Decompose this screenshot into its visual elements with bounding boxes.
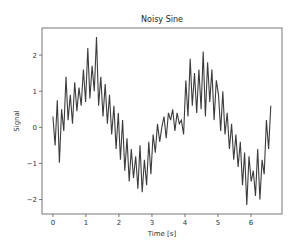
y-tick-label: −1: [27, 160, 37, 168]
x-tick-label: 3: [150, 219, 154, 227]
x-tick-label: 2: [117, 219, 121, 227]
x-tick-label: 0: [51, 219, 55, 227]
y-tick-label: 2: [33, 52, 37, 60]
plot-area: [42, 28, 282, 214]
x-axis-label: Time [s]: [147, 230, 177, 238]
x-tick-label: 5: [216, 219, 220, 227]
y-axis-label: Signal: [13, 110, 21, 132]
x-tick-label: 1: [84, 219, 88, 227]
y-tick-label: −2: [27, 196, 37, 204]
x-tick-label: 6: [249, 219, 254, 227]
x-tick-label: 4: [183, 219, 188, 227]
y-tick-label: 1: [33, 88, 37, 96]
chart-title: Noisy Sine: [141, 15, 183, 24]
y-tick-label: 0: [33, 124, 37, 132]
chart: Noisy Sine 0123456 −2−1012 Time [s] Sign…: [0, 0, 299, 249]
